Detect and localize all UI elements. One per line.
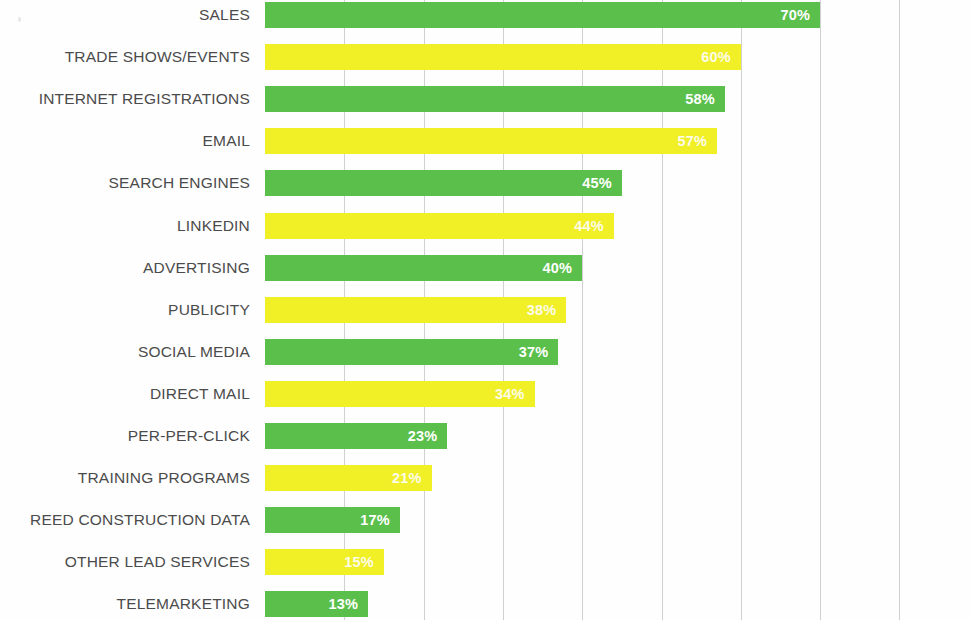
bar-row: TRAINING PROGRAMS21%	[0, 465, 970, 491]
bar: 13%	[265, 591, 368, 617]
category-label: INTERNET REGISTRATIONS	[0, 86, 250, 112]
category-label: OTHER LEAD SERVICES	[0, 549, 250, 575]
bar-value-label: 21%	[392, 470, 432, 486]
bar-value-label: 44%	[574, 218, 614, 234]
bar-chart: SALES70%TRADE SHOWS/EVENTS60%INTERNET RE…	[0, 0, 970, 620]
bar-value-label: 60%	[701, 49, 741, 65]
bar-value-label: 57%	[677, 133, 717, 149]
bar: 45%	[265, 170, 622, 196]
category-label: TRAINING PROGRAMS	[0, 465, 250, 491]
bar: 38%	[265, 297, 566, 323]
bar-row: DIRECT MAIL34%	[0, 381, 970, 407]
bar-value-label: 23%	[408, 428, 448, 444]
bar-value-label: 58%	[685, 91, 725, 107]
bar: 15%	[265, 549, 384, 575]
bar-row: PUBLICITY38%	[0, 297, 970, 323]
bar-value-label: 34%	[495, 386, 535, 402]
bar-row: REED CONSTRUCTION DATA17%	[0, 507, 970, 533]
bar-row: TRADE SHOWS/EVENTS60%	[0, 44, 970, 70]
category-label: EMAIL	[0, 128, 250, 154]
category-label: ADVERTISING	[0, 255, 250, 281]
category-label: TELEMARKETING	[0, 591, 250, 617]
category-label: SOCIAL MEDIA	[0, 339, 250, 365]
category-label: TRADE SHOWS/EVENTS	[0, 44, 250, 70]
bar-value-label: 70%	[780, 7, 820, 23]
category-label: SALES	[0, 2, 250, 28]
bar-row: PER-PER-CLICK23%	[0, 423, 970, 449]
category-label: PUBLICITY	[0, 297, 250, 323]
bar-value-label: 38%	[527, 302, 567, 318]
bar-row: SOCIAL MEDIA37%	[0, 339, 970, 365]
bar: 17%	[265, 507, 400, 533]
bar-row: OTHER LEAD SERVICES15%	[0, 549, 970, 575]
bar-value-label: 15%	[344, 554, 384, 570]
bar: 21%	[265, 465, 432, 491]
bar-row: EMAIL57%	[0, 128, 970, 154]
bar: 44%	[265, 213, 614, 239]
bar-row: TELEMARKETING13%	[0, 591, 970, 617]
bar-row: SEARCH ENGINES45%	[0, 170, 970, 196]
bar-rows-container: SALES70%TRADE SHOWS/EVENTS60%INTERNET RE…	[0, 0, 970, 620]
category-label: SEARCH ENGINES	[0, 170, 250, 196]
bar-value-label: 17%	[360, 512, 400, 528]
bar: 23%	[265, 423, 447, 449]
bar-row: ADVERTISING40%	[0, 255, 970, 281]
bar: 60%	[265, 44, 741, 70]
bar-value-label: 40%	[543, 260, 583, 276]
bar-row: SALES70%	[0, 2, 970, 28]
category-label: REED CONSTRUCTION DATA	[0, 507, 250, 533]
bar-value-label: 13%	[328, 596, 368, 612]
bar: 70%	[265, 2, 820, 28]
bar: 34%	[265, 381, 535, 407]
bar-value-label: 45%	[582, 175, 622, 191]
bar-row: INTERNET REGISTRATIONS58%	[0, 86, 970, 112]
bar: 37%	[265, 339, 558, 365]
category-label: DIRECT MAIL	[0, 381, 250, 407]
bar: 57%	[265, 128, 717, 154]
bar-row: LINKEDIN44%	[0, 213, 970, 239]
bar-value-label: 37%	[519, 344, 559, 360]
category-label: PER-PER-CLICK	[0, 423, 250, 449]
bar: 40%	[265, 255, 582, 281]
bar: 58%	[265, 86, 725, 112]
category-label: LINKEDIN	[0, 213, 250, 239]
